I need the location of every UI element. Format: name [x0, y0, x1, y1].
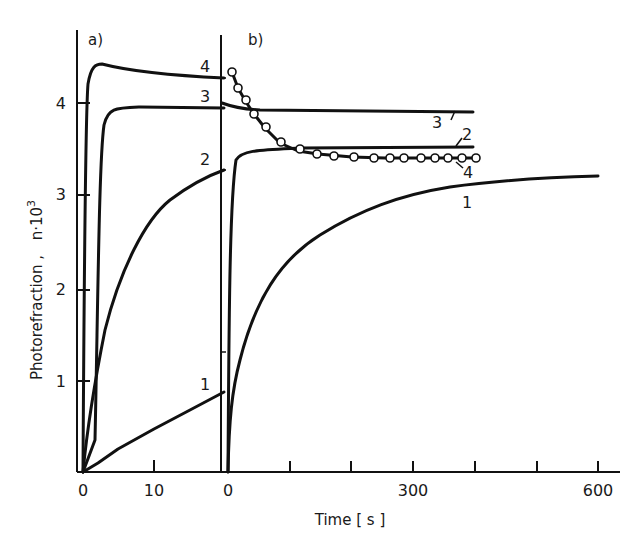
y-tick-2: 2 — [56, 280, 66, 299]
curve-b-3 — [222, 103, 473, 112]
panel-b-curves: 3 2 4 1 — [222, 68, 598, 472]
panel-a-label: a) — [88, 31, 103, 49]
y-tick-1: 1 — [56, 372, 66, 391]
x-axis-label: Time [ s ] — [314, 511, 386, 529]
panel-a-x-tick-labels: 0 10 — [78, 481, 164, 500]
panel-b-label: b) — [248, 31, 263, 49]
curve-b-1 — [228, 176, 598, 472]
y-tick-labels: 4 3 2 1 — [56, 94, 66, 391]
xb-tick-600: 600 — [583, 481, 614, 500]
curve-b-label-3: 3 — [432, 113, 442, 132]
curve-a-label-2: 2 — [200, 150, 210, 169]
panel-b-x-tick-labels: 0 300 600 — [223, 481, 613, 500]
y-axis-label: Photorefraction , n·103 — [25, 200, 46, 380]
panel-a-curves: 4 3 2 1 — [83, 57, 224, 472]
curve-b-label-4: 4 — [463, 163, 473, 182]
y-tick-3: 3 — [56, 185, 66, 204]
y-tick-4: 4 — [56, 94, 66, 113]
curve-a-2 — [83, 170, 224, 472]
xb-tick-300: 300 — [398, 481, 429, 500]
curve-a-label-4: 4 — [200, 57, 210, 76]
xa-tick-10: 10 — [144, 481, 164, 500]
curve-a-label-1: 1 — [200, 375, 210, 394]
xb-tick-0: 0 — [223, 481, 233, 500]
photorefraction-chart: Photorefraction , n·103 4 3 2 1 0 10 a) — [0, 0, 641, 547]
curve-b-label-2: 2 — [462, 125, 472, 144]
xa-tick-0: 0 — [78, 481, 88, 500]
panel-b-axes — [221, 35, 620, 472]
svg-text:Photorefraction , n·103: Photorefraction , n·103 — [25, 200, 46, 380]
curve-a-label-3: 3 — [200, 87, 210, 106]
curve-b-2 — [228, 147, 473, 472]
curve-b-label-1: 1 — [462, 193, 472, 212]
